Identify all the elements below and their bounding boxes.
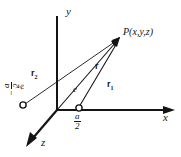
x-axis-label: x — [163, 112, 168, 123]
negative-charge-marker — [20, 102, 26, 108]
vector-r1 — [79, 37, 120, 107]
negative-position-denominator: 2 — [11, 82, 21, 89]
negative-position-fraction: a 2 — [2, 82, 22, 89]
positive-position-fraction: a 2 — [74, 112, 81, 132]
point-p-label: P(x,y,z) — [123, 27, 153, 37]
y-axis-label: y — [66, 6, 71, 17]
vector-r1-label: r1 — [107, 80, 114, 91]
dipole-coordinate-diagram: y x z P(x,y,z) r r1 r2 −e e − a 2 a 2 — [0, 0, 181, 157]
positive-charge-position-label: a 2 — [74, 112, 81, 132]
z-axis-label: z — [41, 137, 45, 148]
diagram-canvas — [0, 0, 181, 157]
negative-position-numerator: a — [2, 82, 11, 89]
negative-position-sign: − — [7, 90, 16, 96]
vector-r1-subscript: 1 — [111, 85, 114, 91]
negative-charge-position-label: − a 2 — [2, 82, 22, 96]
point-p-coords: (x,y,z) — [129, 26, 153, 37]
vector-r-symbol: r — [95, 61, 99, 71]
vector-r2-subscript: 2 — [35, 74, 38, 80]
vector-r — [57, 37, 120, 110]
vector-r2-label: r2 — [31, 69, 38, 80]
positive-position-denominator: 2 — [74, 121, 81, 131]
positive-position-numerator: a — [74, 112, 81, 121]
vector-r-label: r — [95, 62, 99, 71]
positive-charge-label: e — [73, 85, 77, 94]
